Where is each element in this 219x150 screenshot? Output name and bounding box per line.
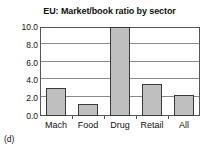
x-axis-tick-label: Retail: [136, 119, 168, 131]
y-axis-tick-label: 10.0: [2, 23, 38, 32]
bar: [110, 27, 129, 116]
y-axis-tick-label: 4.0: [2, 76, 38, 85]
x-axis-tick-label: All: [168, 119, 200, 131]
y-axis-tick-label: 0.0: [2, 112, 38, 121]
x-axis-tick-label: Drug: [104, 119, 136, 131]
bar: [46, 88, 65, 116]
bar: [174, 95, 193, 116]
x-axis: MachFoodDrugRetailAll: [40, 119, 200, 133]
bar: [142, 84, 161, 116]
y-axis: 0.02.04.06.08.010.0: [0, 0, 38, 150]
x-axis-tick-label: Mach: [40, 119, 72, 131]
y-axis-tick-label: 6.0: [2, 59, 38, 68]
chart-figure: EU: Market/book ratio by sector 0.02.04.…: [0, 0, 219, 150]
y-axis-tick-label: 8.0: [2, 41, 38, 50]
panel-caption: (d): [4, 134, 14, 144]
bar: [78, 104, 97, 116]
bars-layer: [40, 27, 200, 116]
y-axis-tick-label: 2.0: [2, 94, 38, 103]
x-axis-tick-label: Food: [72, 119, 104, 131]
